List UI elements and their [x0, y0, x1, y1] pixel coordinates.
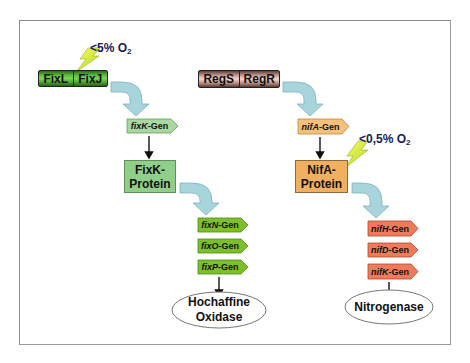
nifA-protein-line1: NifA- — [307, 163, 336, 177]
nifA-protein-line2: Protein — [301, 177, 342, 191]
regS-label: RegS — [199, 71, 239, 87]
curved-arrow-icon — [111, 82, 149, 116]
nifA-gene: nifA-Gen — [298, 120, 349, 134]
fixL-fixJ-bar: FixL FixJ — [38, 70, 108, 87]
regR-label: RegR — [239, 71, 280, 87]
nifK-gene: nifK-Gen — [368, 265, 418, 279]
curved-arrow-icon — [352, 183, 389, 218]
fixL-label: FixL — [39, 71, 73, 86]
product-line1: Nitrogenase — [354, 300, 423, 315]
arrow-down-icon — [146, 136, 153, 158]
arrow-down-icon — [317, 137, 324, 158]
fixK-protein-box: FixK- Protein — [124, 160, 176, 193]
product-line2: Oxidase — [196, 310, 243, 325]
fixO-gene: fixO-Gen — [198, 239, 248, 253]
fixN-gene: fixN-Gen — [198, 218, 248, 232]
oxygen-condition-left: <5% O2 — [90, 41, 131, 56]
fixJ-label: FixJ — [73, 71, 108, 86]
nifD-gene: nifD-Gen — [368, 243, 418, 257]
nitrogenase-label: Nitrogenase — [345, 290, 433, 324]
hochaffine-oxidase-label: Hochaffine Oxidase — [172, 292, 266, 328]
nifH-gene: nifH-Gen — [368, 222, 418, 236]
fixK-protein-line2: Protein — [129, 177, 170, 191]
fixK-protein-line1: FixK- — [135, 163, 165, 177]
regS-regR-bar: RegS RegR — [198, 70, 280, 88]
oxygen-condition-right: <0,5% O2 — [359, 132, 410, 147]
fixK-gene: fixK-Gen — [127, 119, 178, 133]
curved-arrow-icon — [180, 183, 219, 215]
nifA-protein-box: NifA- Protein — [295, 160, 348, 193]
curved-arrow-icon — [283, 82, 323, 116]
fixP-gene: fixP-Gen — [198, 260, 248, 274]
product-line1: Hochaffine — [188, 295, 250, 310]
